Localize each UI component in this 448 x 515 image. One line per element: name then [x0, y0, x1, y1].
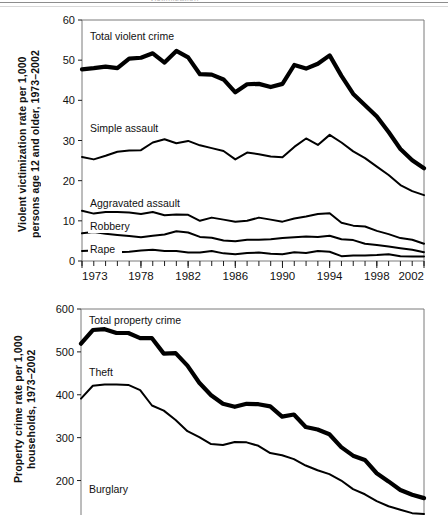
clipped-header-text: victimization	[150, 0, 330, 1]
x-tick-label: 1978	[128, 270, 154, 282]
series-label-theft: Theft	[89, 366, 113, 378]
series-line-robbery	[82, 231, 424, 252]
violent-crime-figure: Violent victimization rate per 1,000 per…	[0, 8, 448, 290]
series-label-robbery: Robbery	[90, 220, 130, 232]
series-label-total-property-crime: Total property crime	[89, 314, 181, 326]
y-tick-label: 300	[56, 432, 74, 444]
y-tick-label: 20	[63, 175, 75, 187]
property-crime-chart: 100200300400500600Total property crimeTh…	[0, 296, 448, 515]
figure-page: victimization Violent victimization rate…	[0, 0, 448, 515]
series-label-aggravated-assault: Aggravated assault	[90, 197, 180, 209]
x-tick-label: 1994	[317, 270, 343, 282]
series-label-burglary: Burglary	[89, 483, 129, 495]
series-label-total-violent-crime: Total violent crime	[90, 30, 174, 42]
series-line-total-property-crime	[81, 329, 424, 498]
y-tick-label: 60	[63, 14, 75, 26]
y-tick-label: 200	[56, 475, 74, 487]
x-tick-label: 2002	[398, 270, 424, 282]
x-tick-label: 1998	[364, 270, 390, 282]
y-tick-label: 400	[56, 389, 74, 401]
y-tick-label: 50	[63, 54, 75, 66]
x-tick-label: 1973	[82, 270, 108, 282]
series-label-rape: Rape	[90, 243, 115, 255]
y-tick-label: 600	[56, 303, 74, 315]
series-label-simple-assault: Simple assault	[90, 122, 158, 134]
x-tick-label: 1986	[223, 270, 249, 282]
y-tick-label: 10	[63, 215, 75, 227]
x-tick-label: 1982	[175, 270, 201, 282]
y-tick-label: 30	[63, 135, 75, 147]
property-crime-figure: Property crime rate per 1,000 households…	[0, 296, 448, 515]
violent-crime-chart: 0102030405060197319781982198619901994199…	[0, 8, 448, 290]
y-tick-label: 500	[56, 346, 74, 358]
page-top-rule	[0, 2, 448, 3]
y-tick-label: 0	[69, 255, 75, 267]
x-tick-label: 1990	[270, 270, 296, 282]
page-second-rule	[0, 6, 448, 7]
series-line-simple-assault	[82, 135, 424, 195]
series-line-rape	[82, 250, 424, 257]
y-tick-label: 40	[63, 94, 75, 106]
